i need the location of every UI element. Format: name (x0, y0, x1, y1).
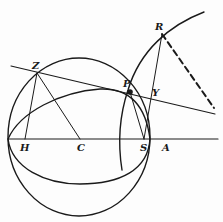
label-z: Z (32, 61, 39, 71)
label-s: S (140, 143, 147, 153)
segment-z-c (37, 73, 80, 139)
label-c: C (77, 143, 85, 153)
diagram-canvas: Z P R Y H C S A (0, 0, 223, 222)
dashed-line-r (162, 34, 214, 108)
label-y: Y (152, 88, 159, 98)
label-a: A (162, 143, 170, 153)
great-circle-ellipse (8, 89, 150, 184)
geometry-figure (0, 0, 223, 222)
label-h: H (20, 143, 29, 153)
label-p: P (123, 79, 131, 89)
label-r: R (155, 22, 163, 32)
point-p-dot (127, 89, 133, 95)
